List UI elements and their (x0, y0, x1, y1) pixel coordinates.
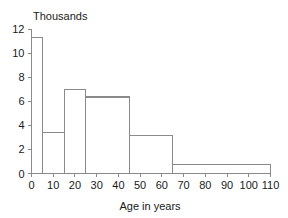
x-tick-label: 60 (156, 179, 168, 191)
y-tick-label: 2 (18, 143, 24, 155)
chart-unit-title: Thousands (33, 10, 88, 22)
y-tick-label: 6 (18, 95, 24, 107)
histogram-bar (64, 89, 86, 173)
x-tick-label: 10 (47, 179, 59, 191)
histogram-bar (42, 133, 64, 174)
x-tick-label: 90 (221, 179, 233, 191)
x-tick-label: 50 (134, 179, 146, 191)
y-tick-label: 0 (18, 168, 24, 180)
y-tick-label: 12 (12, 23, 24, 35)
x-axis-title: Age in years (119, 200, 181, 212)
y-tick-label: 10 (12, 47, 24, 59)
histogram-bar (173, 164, 271, 173)
x-tick-label: 0 (28, 179, 34, 191)
y-tick-label: 8 (18, 71, 24, 83)
histogram-bar (86, 97, 129, 173)
y-tick-label: 4 (18, 119, 24, 131)
histogram-bar (129, 136, 172, 174)
histogram-bar (32, 37, 43, 173)
x-tick-label: 20 (69, 179, 81, 191)
x-tick-label: 70 (177, 179, 189, 191)
x-tick-label: 30 (91, 179, 103, 191)
x-tick-label: 80 (199, 179, 211, 191)
x-tick-label: 40 (112, 179, 124, 191)
x-tick-label: 100 (240, 179, 258, 191)
x-tick-label: 110 (262, 179, 280, 191)
chart-canvas: Thousands 024681012 01020304050607080901… (0, 0, 288, 218)
histogram-chart: Thousands 024681012 01020304050607080901… (0, 0, 288, 218)
